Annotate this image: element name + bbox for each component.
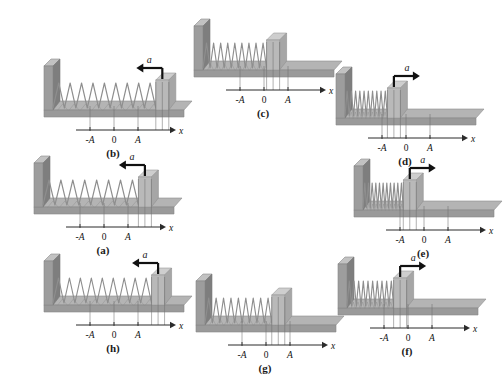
- axis-tick-label: -A: [86, 330, 95, 340]
- axis-tick-label: A: [134, 135, 141, 145]
- axis-tick-label: 0: [112, 330, 117, 340]
- axis-tick-label: -A: [238, 350, 247, 360]
- oscillator-illustration-d: x-A0Aa: [320, 56, 490, 161]
- axis-tick-label: -A: [86, 135, 95, 145]
- axis-tick-label: A: [428, 333, 435, 343]
- axis-tick-label: 0: [406, 333, 411, 343]
- axis-tick-label: A: [124, 232, 131, 242]
- x-axis-arrowhead: [160, 224, 166, 230]
- oscillator-illustration-b: x-A0Aa: [28, 48, 198, 153]
- axis-tick-label: 0: [264, 350, 269, 360]
- x-axis-arrowhead: [170, 322, 176, 328]
- wall-front-face: [44, 66, 53, 110]
- x-axis-label: x: [470, 134, 476, 144]
- x-axis-arrowhead: [170, 127, 176, 133]
- x-axis-arrowhead: [464, 325, 470, 331]
- panel-a: x-A0Aa(a): [18, 145, 188, 250]
- axis-tick-label: 0: [262, 95, 267, 105]
- wall-front-face: [196, 281, 205, 325]
- wall-front-face: [354, 166, 363, 210]
- wall-front-face: [338, 264, 347, 308]
- axis-tick-label: -A: [236, 95, 245, 105]
- axis-tick-label: -A: [396, 235, 405, 245]
- x-axis-label: x: [472, 324, 478, 334]
- axis-tick-label: 0: [102, 232, 107, 242]
- wall-front-face: [336, 74, 345, 118]
- axis-tick-label: A: [134, 330, 141, 340]
- axis-tick-label: 0: [422, 235, 427, 245]
- figure-canvas: x-A0Aa(b)x-A0A(c)x-A0Aa(d)x-A0Aa(a)x-A0A…: [0, 0, 503, 380]
- panel-figure-e: x-A0Aa: [338, 148, 503, 257]
- x-axis-label: x: [178, 126, 184, 136]
- oscillator-illustration-a: x-A0Aa: [18, 145, 188, 250]
- acceleration-arrow-head: [119, 160, 126, 169]
- acceleration-label: a: [129, 151, 134, 162]
- panel-figure-b: x-A0Aa: [28, 48, 198, 157]
- panel-figure-a: x-A0Aa: [18, 145, 188, 254]
- axis-tick-label: -A: [380, 333, 389, 343]
- axis-tick-label: A: [284, 95, 291, 105]
- panel-h: x-A0Aa(h): [28, 243, 198, 348]
- panel-figure-h: x-A0Aa: [28, 243, 198, 352]
- oscillator-illustration-f: x-A0Aa: [322, 246, 492, 351]
- axis-tick-label: A: [286, 350, 293, 360]
- acceleration-label: a: [411, 252, 416, 263]
- wall-front-face: [194, 26, 203, 70]
- panel-figure-f: x-A0Aa: [322, 246, 492, 355]
- acceleration-arrow-head: [419, 261, 426, 270]
- x-axis-arrowhead: [462, 135, 468, 141]
- acceleration-arrow-head: [136, 63, 143, 72]
- panel-b: x-A0Aa(b): [28, 48, 198, 153]
- acceleration-arrow-head: [132, 258, 139, 267]
- panel-f: x-A0Aa(f): [322, 246, 492, 351]
- oscillator-illustration-e: x-A0Aa: [338, 148, 503, 253]
- panel-label-h: (h): [28, 342, 198, 354]
- acceleration-label: a: [404, 62, 409, 73]
- wall-front-face: [34, 163, 43, 207]
- acceleration-arrow-head: [429, 163, 436, 172]
- x-axis-arrowhead: [480, 227, 486, 233]
- acceleration-label: a: [143, 249, 148, 260]
- oscillator-illustration-h: x-A0Aa: [28, 243, 198, 348]
- axis-tick-label: A: [444, 235, 451, 245]
- x-axis-label: x: [168, 223, 174, 233]
- panel-d: x-A0Aa(d): [320, 56, 490, 161]
- acceleration-arrow-head: [413, 71, 420, 80]
- wall-front-face: [44, 261, 53, 305]
- panel-label-g: (g): [180, 362, 350, 374]
- acceleration-label: a: [420, 154, 425, 165]
- acceleration-label: a: [147, 54, 152, 65]
- x-axis-label: x: [488, 226, 494, 236]
- axis-tick-label: 0: [112, 135, 117, 145]
- panel-label-f: (f): [322, 345, 492, 357]
- axis-tick-label: -A: [76, 232, 85, 242]
- panel-e: x-A0Aa(e): [338, 148, 503, 253]
